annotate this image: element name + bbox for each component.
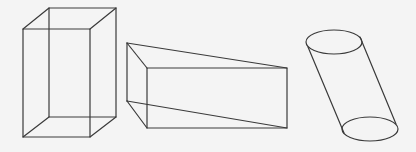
cuboid-edge-br — [90, 117, 116, 137]
figure-svg — [0, 0, 416, 152]
cuboid-edge-tr — [90, 8, 116, 29]
wedge-edge-bottom-left — [127, 101, 147, 128]
cuboid-back-face — [49, 8, 116, 117]
cuboid-edge-tl — [23, 8, 49, 29]
wedge-edge-top-left — [127, 43, 147, 68]
rectangular-prism — [23, 8, 116, 137]
triangular-prism — [127, 43, 287, 128]
geometric-solids-figure — [0, 0, 416, 152]
oblique-cylinder — [306, 30, 398, 141]
cylinder-left-side — [308, 47, 344, 133]
cylinder-right-side — [360, 37, 396, 124]
wedge-front-face — [147, 68, 287, 128]
cuboid-front-face — [23, 29, 90, 137]
cylinder-bottom-ellipse — [342, 117, 398, 141]
cylinder-top-ellipse — [306, 30, 362, 54]
cuboid-edge-bl — [23, 117, 49, 137]
wedge-top-slant — [127, 43, 287, 68]
wedge-bottom-slant — [127, 101, 287, 128]
